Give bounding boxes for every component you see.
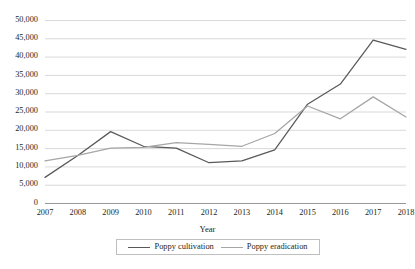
- y-axis-tick-label: 20,000: [0, 125, 38, 133]
- legend-item: Poppy eradication: [221, 243, 308, 251]
- y-axis-tick-label: 30,000: [0, 89, 38, 97]
- x-axis-tick-label: 2012: [194, 209, 224, 217]
- series-line: [45, 97, 406, 161]
- x-axis-tick-label: 2018: [391, 209, 415, 217]
- y-axis-tick-label: 45,000: [0, 34, 38, 42]
- y-axis-tick-label: 40,000: [0, 52, 38, 60]
- x-axis-tick-label: 2016: [325, 209, 355, 217]
- y-axis-tick-label: 5,000: [0, 180, 38, 188]
- y-axis-tick-label: 15,000: [0, 144, 38, 152]
- gridlines: [45, 21, 406, 204]
- data-series-lines: [45, 40, 406, 177]
- x-axis-tick-label: 2010: [128, 209, 158, 217]
- y-axis-tick-label: 25,000: [0, 107, 38, 115]
- y-axis-tick-label: 50,000: [0, 16, 38, 24]
- x-axis-title: Year: [0, 224, 415, 234]
- x-axis-tick-label: 2007: [30, 209, 60, 217]
- y-axis-tick-label: 35,000: [0, 71, 38, 79]
- series-line: [45, 40, 406, 177]
- x-axis-tick-label: 2009: [96, 209, 126, 217]
- y-axis-tick-label: 10,000: [0, 162, 38, 170]
- chart-legend: Poppy cultivationPoppy eradication: [116, 239, 320, 255]
- x-axis-tick-label: 2017: [358, 209, 388, 217]
- legend-item: Poppy cultivation: [128, 243, 213, 251]
- x-axis-tick-label: 2013: [227, 209, 257, 217]
- x-axis-tick-label: 2011: [161, 209, 191, 217]
- x-axis-tick-label: 2015: [293, 209, 323, 217]
- x-axis-tick-label: 2014: [260, 209, 290, 217]
- legend-label: Poppy cultivation: [154, 243, 213, 251]
- x-axis-tick-label: 2008: [63, 209, 93, 217]
- line-chart-figure: 05,00010,00015,00020,00025,00030,00035,0…: [0, 0, 415, 269]
- legend-line-swatch: [128, 247, 150, 248]
- y-axis-tick-label: 0: [0, 199, 38, 207]
- legend-label: Poppy eradication: [247, 243, 308, 251]
- legend-line-swatch: [221, 247, 243, 248]
